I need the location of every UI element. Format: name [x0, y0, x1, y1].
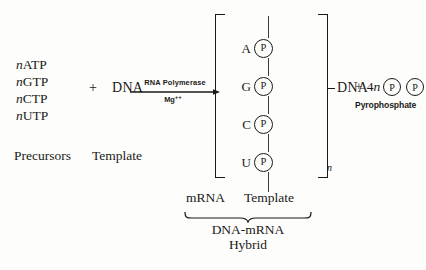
hybrid-caption-line1: DNA-mRNA [178, 222, 318, 237]
cofactor-charge: ++ [175, 94, 182, 100]
base-pair-row: G P [229, 76, 299, 96]
chain-connector [268, 96, 269, 114]
chain-connector [268, 134, 269, 152]
precursor-item: nCTP [16, 90, 48, 107]
hybrid-caption: DNA-mRNA Hybrid [178, 222, 318, 252]
precursor-item: nATP [16, 56, 48, 73]
chain-connector [268, 58, 269, 76]
phosphate-circle-icon: P [254, 77, 273, 96]
precursor-list: nATP nGTP nCTP nUTP [16, 56, 48, 124]
base-pair-row: U P [229, 152, 299, 172]
template-caption: Template [92, 148, 142, 164]
precursor-coefficient: n [16, 74, 23, 89]
bracket-subscript: n [327, 162, 332, 173]
phosphate-circle-icon: P [254, 153, 273, 172]
base-pair-row: C P [229, 114, 299, 134]
base-letter: G [229, 80, 251, 93]
precursor-coefficient: n [16, 57, 23, 72]
base-letter: C [229, 118, 251, 131]
mrna-caption: mRNA [186, 190, 225, 206]
chain-connector [268, 16, 269, 38]
phosphate-circle-icon: P [383, 78, 401, 96]
enzyme-label: RNA Polymerase [130, 78, 220, 87]
template-strand-caption: Template [244, 190, 294, 206]
pyrophosphate-coefficient: 4 [367, 79, 374, 95]
precursor-item: nGTP [16, 73, 48, 90]
precursor-coefficient: n [16, 91, 23, 106]
bracket-left [215, 14, 225, 178]
precursors-caption: Precursors [14, 148, 71, 164]
pyrophosphate-group: + 4 n P P Pyrophosphate [355, 78, 425, 110]
phosphate-circle-icon: P [406, 78, 424, 96]
bracket-right [318, 14, 328, 178]
strand-dash [327, 88, 335, 89]
precursor-molecule: UTP [23, 108, 49, 123]
pyrophosphate-coefficient-variable: n [373, 79, 380, 95]
precursor-item: nUTP [16, 107, 48, 124]
pyrophosphate-expression: + 4 n P P [355, 78, 425, 96]
base-pair-row: A P [229, 38, 299, 58]
plus-operator-reactants: + [89, 80, 97, 96]
pyrophosphate-caption: Pyrophosphate [355, 100, 425, 110]
phosphate-circle-icon: P [254, 39, 273, 58]
precursor-molecule: CTP [23, 91, 48, 106]
phosphate-circle-icon: P [254, 115, 273, 134]
hybrid-bracket-group: A P G P C P U P n [215, 14, 327, 176]
precursor-molecule: GTP [23, 74, 49, 89]
precursor-coefficient: n [16, 108, 23, 123]
precursor-molecule: ATP [23, 57, 47, 72]
base-letter: U [229, 156, 251, 169]
chain-connector [268, 172, 269, 192]
reaction-arrow: RNA Polymerase Mg++ [130, 78, 220, 108]
plus-operator-products: + [355, 79, 363, 95]
base-letter: A [229, 42, 251, 55]
base-chain: A P G P C P U P [229, 14, 299, 176]
cofactor-label: Mg++ [130, 94, 216, 104]
hybrid-caption-line2: Hybrid [178, 237, 318, 252]
